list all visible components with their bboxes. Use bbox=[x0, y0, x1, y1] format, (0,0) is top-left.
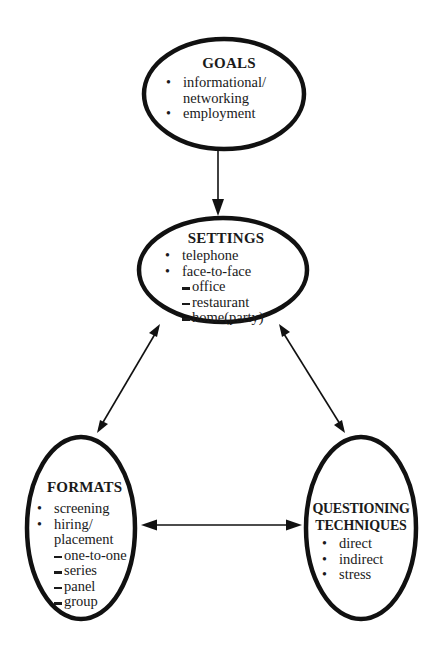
questioning-item: stress bbox=[320, 567, 420, 583]
settings-title: SETTINGS bbox=[163, 230, 283, 247]
settings-subitem: restaurant bbox=[163, 295, 283, 311]
questioning-item: direct bbox=[320, 536, 420, 552]
questioning-item: indirect bbox=[320, 552, 420, 568]
arrow-settings-formats bbox=[97, 324, 160, 433]
formats-title: FORMATS bbox=[35, 479, 135, 496]
formats-list: screening hiring/ placement one-to-one s… bbox=[35, 501, 135, 610]
formats-item: placement bbox=[35, 532, 135, 548]
goals-item: networking bbox=[164, 91, 294, 107]
formats-item: screening bbox=[35, 501, 135, 517]
settings-subitem: office bbox=[163, 279, 283, 295]
formats-subitem-label: series bbox=[54, 562, 97, 578]
goals-node: GOALS informational/ networking employme… bbox=[164, 55, 294, 122]
formats-subitem: panel bbox=[35, 579, 135, 595]
arrow-formats-questioning bbox=[141, 520, 302, 531]
goals-item: informational/ bbox=[164, 75, 294, 91]
arrowhead-left-icon bbox=[141, 520, 157, 531]
formats-subitem-label: one-to-one bbox=[54, 547, 127, 563]
questioning-title-line1: QUESTIONING bbox=[302, 500, 420, 517]
formats-item: hiring/ bbox=[35, 517, 135, 533]
formats-node: FORMATS screening hiring/ placement one-… bbox=[35, 479, 135, 610]
settings-node: SETTINGS telephone face-to-face office r… bbox=[163, 230, 283, 326]
settings-item: telephone bbox=[163, 248, 283, 264]
arrowhead-right-icon bbox=[286, 520, 302, 531]
formats-subitem-label: panel bbox=[54, 578, 95, 594]
settings-subitem-label: restaurant bbox=[182, 294, 249, 310]
settings-subitem-label: office bbox=[182, 278, 226, 294]
goals-item: employment bbox=[164, 106, 294, 122]
formats-subitem-label: group bbox=[54, 593, 98, 609]
settings-subitem: home(party) bbox=[163, 310, 283, 326]
arrow-goals-to-settings bbox=[212, 150, 224, 216]
arrowhead-icon bbox=[149, 324, 160, 337]
formats-subitem: series bbox=[35, 563, 135, 579]
formats-subitem: one-to-one bbox=[35, 548, 135, 564]
questioning-list: direct indirect stress bbox=[302, 536, 420, 583]
settings-list: telephone face-to-face office restaurant… bbox=[163, 248, 283, 326]
arrow-settings-questioning bbox=[279, 324, 345, 433]
arrowhead-down-icon bbox=[212, 199, 224, 216]
formats-subitem: group bbox=[35, 594, 135, 610]
settings-subitem-label: home(party) bbox=[182, 309, 264, 325]
questioning-node: QUESTIONING TECHNIQUES direct indirect s… bbox=[302, 500, 420, 583]
questioning-title-line2: TECHNIQUES bbox=[302, 517, 420, 534]
arrowhead-icon bbox=[279, 324, 290, 337]
goals-title: GOALS bbox=[164, 55, 294, 72]
goals-list: informational/ networking employment bbox=[164, 75, 294, 122]
arrowhead-icon bbox=[97, 420, 108, 433]
arrowhead-icon bbox=[334, 420, 345, 433]
interview-diagram: GOALS informational/ networking employme… bbox=[0, 0, 446, 660]
settings-item: face-to-face bbox=[163, 264, 283, 280]
